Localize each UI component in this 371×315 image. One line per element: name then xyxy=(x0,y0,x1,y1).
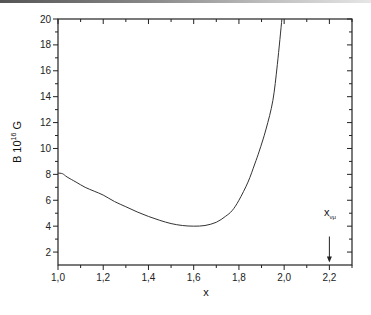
y-axis-title: B 1016 G xyxy=(10,121,23,163)
x-tick-label: 1,6 xyxy=(187,272,201,283)
x-tick-label: 2,2 xyxy=(322,272,336,283)
y-tick-label: 18 xyxy=(40,39,52,50)
x-tick-label: 1,0 xyxy=(51,272,65,283)
y-tick-label: 4 xyxy=(45,221,51,232)
y-tick-label: 12 xyxy=(40,117,52,128)
plot-border xyxy=(58,19,352,265)
y-axis-title-unit: G xyxy=(11,121,23,133)
y-tick-label: 2 xyxy=(45,247,51,258)
plot-frame xyxy=(58,19,352,265)
x-axis-title: x xyxy=(203,286,209,298)
y-tick-label: 6 xyxy=(45,195,51,206)
y-axis-title-main: B 10 xyxy=(11,140,23,163)
y-tick-label: 16 xyxy=(40,65,52,76)
x-tick-label: 1,4 xyxy=(142,272,156,283)
x-tick-label: 1,2 xyxy=(96,272,110,283)
x-tick-label: 1,8 xyxy=(232,272,246,283)
y-tick-labels: 2468101214161820 xyxy=(40,14,52,258)
y-tick-label: 14 xyxy=(40,91,52,102)
x-tick-label: 2,0 xyxy=(277,272,291,283)
data-series-curve xyxy=(58,19,282,226)
line-chart: 1,01,21,41,61,82,02,2 2468101214161820 x… xyxy=(0,0,371,315)
y-axis-title-sup: 16 xyxy=(10,132,17,140)
svg-text:B 1016 G: B 1016 G xyxy=(10,121,23,163)
annotation-label: xνμ xyxy=(324,206,337,220)
annotation-x-numu: xνμ xyxy=(324,206,337,262)
y-tick-label: 8 xyxy=(45,169,51,180)
annotation-arrow-head xyxy=(327,256,332,262)
x-tick-labels: 1,01,21,41,61,82,02,2 xyxy=(51,272,337,283)
axis-ticks xyxy=(53,19,352,270)
y-tick-label: 10 xyxy=(40,143,52,154)
y-tick-label: 20 xyxy=(40,14,52,25)
